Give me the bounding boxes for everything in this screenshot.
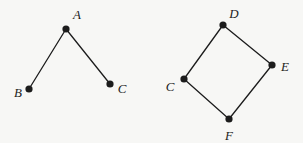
edge-C-F bbox=[184, 79, 229, 119]
vertex-label-E: E bbox=[280, 59, 289, 74]
vertex-label-F: F bbox=[224, 128, 234, 143]
edge-A-C bbox=[66, 29, 110, 84]
edge-F-E bbox=[229, 65, 272, 119]
edge-D-C bbox=[184, 25, 223, 79]
left-graph: ABC bbox=[14, 7, 127, 100]
vertex-dot-C bbox=[106, 80, 113, 87]
edge-D-E bbox=[223, 25, 272, 65]
vertex-label-A: A bbox=[72, 7, 81, 22]
edge-A-B bbox=[29, 29, 66, 89]
vertex-label-D: D bbox=[228, 6, 239, 21]
graph-diagram-figure: ABCDECF bbox=[0, 0, 303, 143]
right-graph: DECF bbox=[166, 6, 289, 143]
vertex-dot-C bbox=[180, 75, 187, 82]
diagram-svg: ABCDECF bbox=[0, 0, 303, 143]
vertex-dot-A bbox=[62, 25, 69, 32]
vertex-label-C: C bbox=[118, 81, 127, 96]
vertex-dot-E bbox=[268, 61, 275, 68]
vertex-label-C: C bbox=[166, 79, 175, 94]
vertex-dot-F bbox=[225, 115, 232, 122]
vertex-dot-D bbox=[219, 21, 226, 28]
vertex-dot-B bbox=[25, 85, 32, 92]
vertex-label-B: B bbox=[14, 85, 22, 100]
